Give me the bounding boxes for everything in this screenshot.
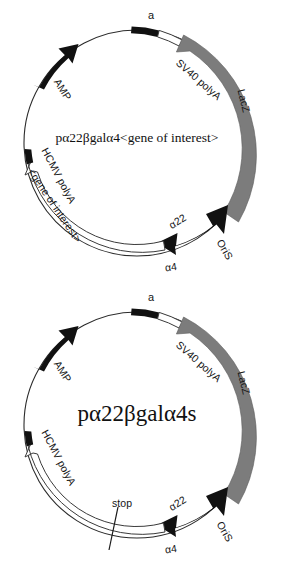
feature-amp-label: AMP [52,358,75,384]
feature-sv40-polya-band [158,312,183,328]
feature-a-band [131,309,159,319]
feature-a-band [131,27,159,37]
feature-alpha4-label: α4 [164,260,178,274]
feature-a-label: a [148,291,155,303]
feature-oris-label: α22 [167,493,189,513]
feature-gene-of-interest-band [25,163,165,253]
figure-canvas: a SV40 polyA LacZ α22 OriS α4 <gene of i… [0,0,285,564]
plasmid-center-label: pα22βgalα4s [78,401,197,426]
feature-alpha22-label: OriS [215,519,236,544]
plasmid-map-top: a SV40 polyA LacZ α22 OriS α4 <gene of i… [0,0,285,282]
feature-gene-of-interest-band [25,445,165,535]
plasmid-map-bottom: a SV40 polyA LacZ α22 OriS α4 stop HCMV … [0,282,285,564]
feature-alpha22-label: OriS [215,237,236,262]
feature-alpha4-label: α4 [164,542,178,556]
feature-a-label: a [148,9,155,21]
feature-amp-label: AMP [52,76,75,102]
feature-sv40-polya-band [158,30,183,46]
feature-stop-label: stop [112,497,132,509]
plasmid-center-label: pα22βgalα4<gene of interest> [56,130,219,145]
feature-oris-label: α22 [167,211,189,231]
